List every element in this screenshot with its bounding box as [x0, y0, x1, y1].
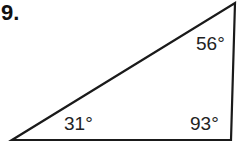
angle-label-bottom-right: 93°: [190, 114, 219, 134]
angle-label-top: 56°: [196, 34, 225, 54]
problem-figure: 9. 56° 93° 31°: [0, 0, 238, 142]
angle-label-bottom-left: 31°: [64, 114, 93, 134]
